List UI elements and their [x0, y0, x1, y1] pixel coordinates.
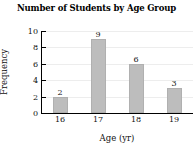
x-axis-line	[41, 113, 193, 114]
y-axis-tick-label: 8	[33, 43, 38, 52]
bar-value-label: 9	[95, 30, 100, 39]
y-axis-tick	[42, 64, 46, 65]
x-axis-tick-label: 19	[169, 115, 179, 124]
x-axis-title: Age (yr)	[41, 133, 193, 143]
bar: 6	[129, 64, 144, 113]
bar: 9	[91, 39, 106, 113]
y-axis-tick-label: 2	[33, 92, 38, 101]
gridline	[42, 47, 193, 48]
y-axis-tick-label: 10	[28, 27, 38, 36]
bar: 3	[167, 88, 182, 113]
y-axis-tick	[42, 97, 46, 98]
gridline	[42, 80, 193, 81]
y-axis-tick-label: 0	[33, 109, 38, 118]
y-axis-line	[41, 31, 42, 113]
bar-chart: Number of Students by Age Group 0246810 …	[0, 0, 193, 155]
gridline	[42, 64, 193, 65]
y-axis-tick-label: 6	[33, 59, 38, 68]
bar-value-label: 6	[133, 55, 138, 64]
x-axis-tick-label: 17	[93, 115, 103, 124]
bar: 2	[53, 97, 68, 113]
gridline	[42, 31, 193, 32]
y-axis-tick	[42, 47, 46, 48]
plot-area: 0246810 2963 16171819	[41, 31, 193, 113]
y-axis-title: Frequency	[0, 49, 9, 95]
x-axis-tick-label: 18	[131, 115, 141, 124]
chart-title: Number of Students by Age Group	[0, 3, 193, 13]
x-axis-tick-label: 16	[55, 115, 65, 124]
y-axis-tick	[42, 31, 46, 32]
bar-value-label: 3	[171, 79, 176, 88]
y-axis-tick-label: 4	[33, 76, 38, 85]
y-axis-tick	[42, 113, 46, 114]
y-axis-tick	[42, 80, 46, 81]
bar-value-label: 2	[57, 88, 62, 97]
